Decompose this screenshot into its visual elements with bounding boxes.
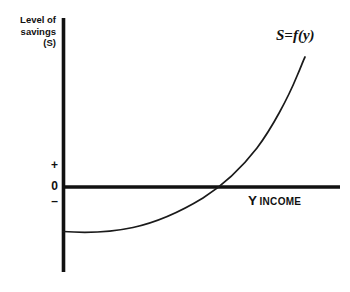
y-tick-label-negative: – [42,195,58,207]
x-axis-title-symbol: Y [248,193,258,208]
y-tick-label-zero: 0 [42,180,58,192]
savings-function-chart: Level of savings (S) + 0 – YINCOME S=f(y… [0,0,350,292]
y-tick-label-positive: + [42,159,58,171]
curve-function-label: S=f(y) [276,27,315,44]
x-axis-title-word: INCOME [260,196,302,207]
x-axis-title: YINCOME [248,191,301,209]
